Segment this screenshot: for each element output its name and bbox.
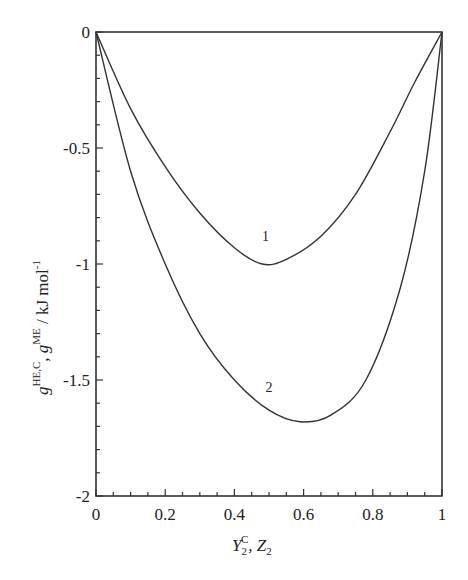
x-tick-label: 0.6 — [293, 505, 314, 524]
chart: 12 00.20.40.60.810-0.5-1-1.5-2 Y2C, Z2 g… — [0, 0, 468, 580]
y-tick-label: -1 — [76, 255, 90, 274]
plot-border — [96, 32, 442, 496]
tick-labels: 00.20.40.60.810-0.5-1-1.5-2 — [63, 23, 446, 524]
y-tick-label: 0 — [82, 23, 91, 42]
x-axis-title: Y2C, Z2 — [232, 533, 272, 557]
y-tick-label: -1.5 — [63, 371, 90, 390]
x-tick-label: 0.2 — [155, 505, 176, 524]
plot-frame — [96, 32, 442, 496]
y-tick-label: -0.5 — [63, 139, 90, 158]
x-tick-label: 0.4 — [224, 505, 246, 524]
y-tick-label: -2 — [76, 487, 90, 506]
y-axis-title: gHE,C, gME / kJ mol-1 — [30, 260, 52, 395]
axis-ticks — [96, 32, 442, 496]
curve-label-1: 1 — [262, 229, 269, 244]
x-tick-label: 0.8 — [362, 505, 383, 524]
x-tick-label: 1 — [438, 505, 447, 524]
data-curves: 12 — [96, 32, 442, 422]
x-tick-label: 0 — [92, 505, 101, 524]
curve-label-2: 2 — [266, 380, 273, 395]
curve-2 — [96, 32, 442, 422]
